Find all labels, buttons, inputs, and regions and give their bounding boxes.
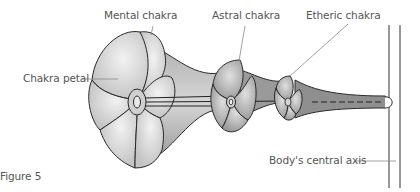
etheric-chakra-label: Etheric chakra [306, 9, 381, 21]
mental-chakra-label: Mental chakra [104, 9, 177, 21]
central-axis-label: Body's central axis [269, 154, 366, 166]
chakra-petal-label: Chakra petal [23, 72, 89, 84]
chakra-diagram: Mental chakra Astral chakra Etheric chak… [0, 0, 420, 192]
mental-chakra-petals [89, 32, 175, 168]
figure-caption: Figure 5 [0, 170, 41, 182]
astral-chakra-petals [211, 60, 256, 132]
astral-chakra-label: Astral chakra [212, 9, 280, 21]
etheric-chakra-stem [295, 80, 389, 118]
